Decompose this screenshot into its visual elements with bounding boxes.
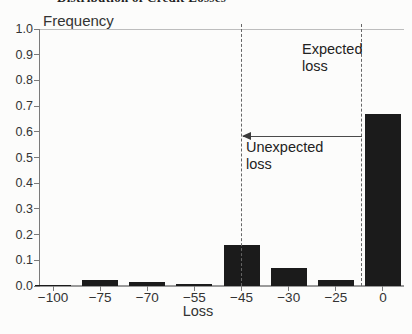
y-tick-0.1: [34, 260, 40, 261]
y-tick-label-0.7: 0.7: [2, 99, 33, 113]
y-tick-0.8: [34, 80, 40, 81]
y-tick-0.5: [34, 157, 40, 158]
x-tick-label-−25: −25: [312, 290, 360, 305]
expected-loss-line1: Expected: [302, 41, 362, 58]
x-tick-label-0: 0: [359, 290, 407, 305]
y-tick-1.0: [34, 29, 40, 30]
y-tick-0.2: [34, 234, 40, 235]
x-tick-label-−100: −100: [29, 290, 77, 305]
y-tick-0.3: [34, 208, 40, 209]
y-tick-label-0.6: 0.6: [2, 125, 33, 139]
dashed-line-unexpected-boundary: [241, 24, 242, 286]
y-tick-label-0.4: 0.4: [2, 176, 33, 190]
bar-−70: [129, 282, 165, 286]
y-tick-label-0.3: 0.3: [2, 202, 33, 216]
bar-−100: [35, 285, 71, 286]
y-tick-label-1.0: 1.0: [2, 22, 33, 36]
unexpected-loss-arrow-line: [243, 136, 362, 137]
y-tick-label-0.5: 0.5: [2, 151, 33, 165]
y-tick-label-0.9: 0.9: [2, 48, 33, 62]
bar-0: [365, 114, 401, 286]
unexpected-loss-annotation: Unexpected loss: [246, 139, 323, 173]
bar-−30: [271, 268, 307, 286]
expected-loss-annotation: Expected loss: [302, 41, 362, 75]
x-tick-label-−30: −30: [265, 290, 313, 305]
bar-−55: [176, 284, 212, 286]
unexpected-loss-line2: loss: [246, 156, 323, 173]
x-tick-label-−75: −75: [76, 290, 124, 305]
y-tick-0.7: [34, 106, 40, 107]
x-axis-title: Loss: [160, 303, 236, 319]
y-tick-label-0.2: 0.2: [2, 228, 33, 242]
bar-−25: [318, 280, 354, 286]
y-tick-0.6: [34, 131, 40, 132]
bar-−75: [82, 280, 118, 286]
chart-figure: Distribution of Credit Losses Frequency …: [0, 0, 412, 334]
expected-loss-line2: loss: [302, 58, 362, 75]
unexpected-loss-line1: Unexpected: [246, 139, 323, 156]
plot-top-border: [40, 29, 404, 30]
y-tick-label-0.1: 0.1: [2, 253, 33, 267]
y-tick-label-0.8: 0.8: [2, 73, 33, 87]
plot-area: 1.00.90.80.70.60.50.40.30.20.10.0 −100−7…: [0, 0, 412, 334]
y-tick-0.4: [34, 183, 40, 184]
y-tick-0.9: [34, 54, 40, 55]
